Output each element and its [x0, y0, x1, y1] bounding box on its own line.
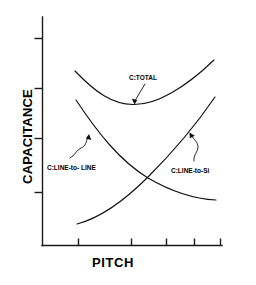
y-axis-ticks: [35, 39, 43, 193]
leader-c-line-to-line: [70, 134, 91, 158]
leader-c-line-to-si: [190, 133, 199, 162]
curve-label-c-line-to-line: C:LINE-to- LINE: [47, 164, 96, 171]
plot-canvas: [0, 0, 256, 285]
capacitance-vs-pitch-figure: CAPACITANCE PITCH C:TOTAL C:LINE-to- LIN…: [0, 0, 256, 285]
x-axis-title: PITCH: [92, 255, 134, 270]
x-axis-ticks: [79, 239, 221, 246]
curve-label-c-line-to-si: C:LINE-to-Si: [171, 167, 209, 174]
leader-c-total: [132, 84, 145, 105]
y-axis-title: CAPACITANCE: [20, 77, 35, 197]
curve-label-c-total: C:TOTAL: [129, 74, 157, 81]
curve-c-line-to-line: [76, 100, 216, 200]
curve-c-total: [75, 60, 214, 105]
